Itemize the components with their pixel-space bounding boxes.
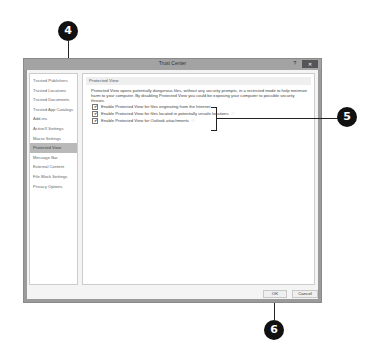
callout-5: 5 [337,107,357,127]
option-unsafe-locations[interactable]: ✔Enable Protected View for files located… [92,111,235,117]
window-title: Trust Center [24,60,321,66]
sidebar-item-file-block-settings[interactable]: File Block Settings [30,172,77,182]
main-panel: Protected View Protected View opens pote… [82,73,315,285]
option-label: Enable Protected View for Outlook attach… [101,118,189,123]
dialog-body: Trusted Publishers Trusted Locations Tru… [27,70,318,299]
callout-4: 4 [58,21,78,41]
sidebar-item-privacy-options[interactable]: Privacy Options [30,182,77,192]
option-outlook-attachments[interactable]: ✔Enable Protected View for Outlook attac… [92,118,195,124]
cancel-button[interactable]: Cancel [292,290,318,298]
close-button[interactable]: ✕ [302,60,318,68]
help-button[interactable]: ? [291,60,299,66]
sidebar-item-message-bar[interactable]: Message Bar [30,153,77,163]
callout-5-leader-line [216,118,338,119]
callout-6: 6 [264,320,284,340]
section-title: Protected View [86,77,311,85]
sidebar-item-trusted-app-catalogs[interactable]: Trusted App Catalogs [30,105,77,115]
checkbox-outlook-attachments[interactable]: ✔ [92,118,98,124]
sidebar-item-protected-view[interactable]: Protected View [30,143,77,153]
sidebar-item-trusted-locations[interactable]: Trusted Locations [30,86,77,96]
description-text: Protected View opens potentially dangero… [91,88,308,103]
option-internet-files[interactable]: ✔Enable Protected View for files origina… [92,104,210,110]
sidebar-item-trusted-publishers[interactable]: Trusted Publishers [30,76,77,86]
callout-5-bracket-vertical [216,107,217,131]
info-icon[interactable]: ⓘ [231,111,235,117]
callout-5-bracket-bottom [211,130,217,131]
sidebar-item-activex-settings[interactable]: ActiveX Settings [30,124,77,134]
trust-center-dialog: Trust Center ? ✕ Trusted Publishers Trus… [23,58,322,303]
option-label: Enable Protected View for files located … [101,111,229,116]
option-label: Enable Protected View for files originat… [101,104,210,109]
sidebar-item-trusted-documents[interactable]: Trusted Documents [30,95,77,105]
checkbox-unsafe-locations[interactable]: ✔ [92,111,98,117]
title-bar[interactable]: Trust Center ? ✕ [24,59,321,70]
ok-button[interactable]: OK [263,290,287,298]
sidebar: Trusted Publishers Trusted Locations Tru… [29,73,78,285]
sidebar-item-macro-settings[interactable]: Macro Settings [30,134,77,144]
sidebar-item-add-ins[interactable]: Add-ins [30,114,77,124]
sidebar-item-external-content[interactable]: External Content [30,162,77,172]
info-icon[interactable]: ⓘ [191,118,195,124]
checkbox-internet-files[interactable]: ✔ [92,104,98,110]
